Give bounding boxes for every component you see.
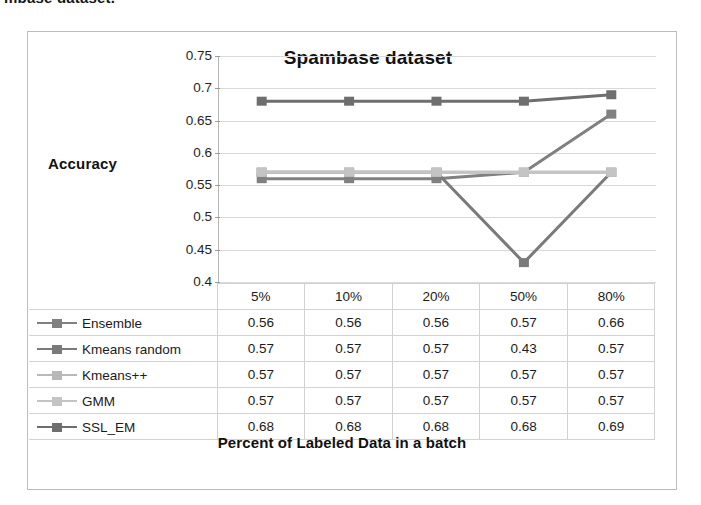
legend-entry: Ensemble [29,310,217,336]
x-axis-title: Percent of Labeled Data in a batch [29,434,655,451]
legend-marker-swatch [52,319,62,328]
data-table: 5%10%20%50%80%Ensemble0.560.560.560.570.… [29,283,655,440]
legend-key-icon [37,422,77,432]
table-header-cell: 5% [217,284,305,310]
data-point-marker [519,97,529,106]
table-row: GMM0.570.570.570.570.57 [29,388,655,414]
table-cell: 0.57 [392,388,480,414]
data-point-marker [432,97,442,106]
data-point-marker [344,168,354,177]
table-header-legend-cell [29,284,217,310]
y-axis-tick-label: 0.55 [152,177,212,192]
table-cell: 0.56 [305,310,393,336]
table-row: Ensemble0.560.560.560.570.66 [29,310,655,336]
table-row: Kmeans random0.570.570.570.430.57 [29,336,655,362]
legend-label: Kmeans random [82,341,181,356]
table-cell: 0.56 [217,310,305,336]
table-cell: 0.66 [567,310,655,336]
data-point-marker [606,90,616,99]
legend-label: SSL_EM [82,419,135,434]
legend-key-icon [37,396,77,406]
table-cell: 0.57 [392,362,480,388]
data-point-marker [257,168,267,177]
table-row: Kmeans++0.570.570.570.570.57 [29,362,655,388]
table-cell: 0.57 [305,388,393,414]
legend-label: Kmeans++ [82,367,147,382]
legend-marker-swatch [52,345,62,354]
table-cell: 0.56 [392,310,480,336]
table-cell: 0.57 [392,336,480,362]
legend-entry: Kmeans random [29,336,217,362]
table-header-cell: 50% [480,284,568,310]
y-axis-tick-label: 0.6 [152,145,212,160]
data-point-marker [257,97,267,106]
table-cell: 0.57 [567,362,655,388]
y-axis-title: Accuracy [48,155,117,172]
data-point-marker [344,97,354,106]
data-table-body: 5%10%20%50%80%Ensemble0.560.560.560.570.… [29,284,655,440]
page-caption-strip: mbase dataset. [0,0,701,16]
legend-label: GMM [82,393,115,408]
table-cell: 0.43 [480,336,568,362]
legend-key-icon [37,370,77,380]
y-axis-tick-label: 0.65 [152,113,212,128]
table-header-row: 5%10%20%50%80% [29,284,655,310]
y-axis-tick-label: 0.75 [152,48,212,63]
table-cell: 0.57 [305,336,393,362]
table-cell: 0.57 [217,336,305,362]
data-point-marker [432,168,442,177]
table-cell: 0.57 [217,388,305,414]
table-cell: 0.57 [480,310,568,336]
legend-marker-swatch [52,371,62,380]
table-cell: 0.57 [480,388,568,414]
data-point-marker [606,168,616,177]
table-header-cell: 20% [392,284,480,310]
legend-marker-swatch [52,423,62,432]
series-ssl-em [257,90,617,105]
chart-series-layer [218,56,655,282]
y-axis-tick-label: 0.45 [152,242,212,257]
y-axis-tick-label: 0.7 [152,80,212,95]
page-caption-text: mbase dataset. [4,0,115,6]
table-cell: 0.57 [217,362,305,388]
legend-entry: Kmeans++ [29,362,217,388]
legend-marker-swatch [52,397,62,406]
series-line [262,172,612,262]
y-axis-tick-labels: 0.750.70.650.60.550.50.450.4 [150,56,212,282]
data-point-marker [519,168,529,177]
legend-label: Ensemble [82,315,142,330]
legend-key-icon [37,344,77,354]
y-axis-tick-label: 0.5 [152,209,212,224]
legend-entry: GMM [29,388,217,414]
data-point-marker [606,110,616,119]
series-gmm [257,168,617,177]
table-header-cell: 10% [305,284,393,310]
table-cell: 0.57 [305,362,393,388]
data-point-marker [519,258,529,267]
table-cell: 0.57 [480,362,568,388]
legend-key-icon [37,318,77,328]
table-cell: 0.57 [567,336,655,362]
table-header-cell: 80% [567,284,655,310]
table-cell: 0.57 [567,388,655,414]
